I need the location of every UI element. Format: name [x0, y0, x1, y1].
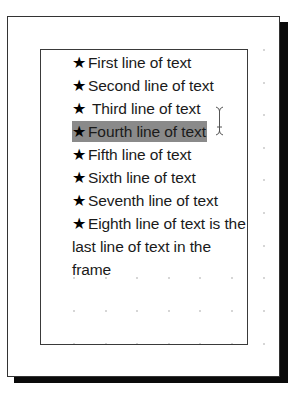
text-cursor-icon [215, 106, 224, 136]
line-text: Sixth line of text [88, 169, 196, 186]
pasteboard: ★First line of text ★Second line of text… [0, 0, 304, 398]
text-line-8[interactable]: ★Eighth line of text is the last line of… [72, 212, 248, 281]
line-text: Second line of text [88, 77, 214, 94]
text-frame-content[interactable]: ★First line of text ★Second line of text… [72, 51, 248, 281]
star-icon: ★ [72, 189, 88, 212]
text-line-1[interactable]: ★First line of text [72, 51, 248, 74]
line-text: Fifth line of text [88, 146, 191, 163]
line-text: Eighth line of text is the last line of … [72, 215, 246, 278]
star-icon: ★ [72, 120, 88, 143]
line-text: Fourth line of text [88, 123, 206, 140]
line-text: Seventh line of text [88, 192, 218, 209]
star-icon: ★ [72, 97, 88, 120]
selection-highlight[interactable]: ★Fourth line of text [72, 121, 207, 142]
star-icon: ★ [72, 166, 88, 189]
star-icon: ★ [72, 74, 88, 97]
star-icon: ★ [72, 51, 88, 74]
text-line-5[interactable]: ★Fifth line of text [72, 143, 248, 166]
text-line-2[interactable]: ★Second line of text [72, 74, 248, 97]
text-line-6[interactable]: ★Sixth line of text [72, 166, 248, 189]
star-icon: ★ [72, 143, 88, 166]
star-icon: ★ [72, 212, 88, 235]
text-line-7[interactable]: ★Seventh line of text [72, 189, 248, 212]
line-text: First line of text [88, 54, 191, 71]
line-text: Third line of text [88, 100, 200, 117]
